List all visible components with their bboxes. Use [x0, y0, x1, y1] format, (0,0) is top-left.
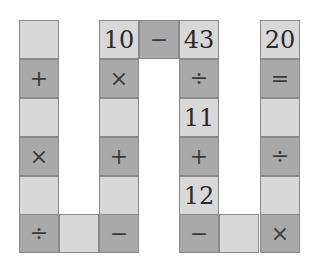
cell-number: 10	[104, 28, 135, 52]
cell-operator: +	[190, 146, 208, 168]
cell-number: 11	[184, 106, 215, 130]
operator-cell: −	[139, 20, 179, 59]
cell-operator: ÷	[271, 146, 289, 168]
cell-operator: −	[150, 29, 168, 51]
number-cell: 20	[260, 20, 300, 59]
number-cell: 12	[179, 176, 219, 215]
operator-cell: ÷	[19, 214, 59, 253]
cell-operator: =	[271, 68, 289, 90]
cell-operator: +	[110, 146, 128, 168]
empty-input-cell[interactable]	[99, 98, 139, 137]
empty-input-cell[interactable]	[99, 176, 139, 215]
cell-operator: ÷	[190, 68, 208, 90]
empty-input-cell[interactable]	[19, 20, 59, 59]
cell-operator: ×	[110, 68, 128, 90]
empty-input-cell[interactable]	[260, 176, 300, 215]
operator-cell: −	[179, 214, 219, 253]
empty-input-cell[interactable]	[19, 176, 59, 215]
cell-operator: ×	[271, 223, 289, 245]
operator-cell: ×	[99, 59, 139, 98]
math-path-puzzle-board: +×÷−+×10−43÷11+12−×÷=20	[0, 0, 319, 270]
operator-cell: +	[99, 137, 139, 176]
operator-cell: ÷	[179, 59, 219, 98]
operator-cell: =	[260, 59, 300, 98]
cell-number: 12	[184, 184, 215, 208]
operator-cell: +	[179, 137, 219, 176]
empty-input-cell[interactable]	[219, 214, 259, 253]
cell-operator: ×	[30, 146, 48, 168]
operator-cell: ÷	[260, 137, 300, 176]
cell-operator: −	[190, 223, 208, 245]
cell-operator: ÷	[30, 223, 48, 245]
cell-operator: +	[30, 68, 48, 90]
number-cell: 11	[179, 98, 219, 137]
empty-input-cell[interactable]	[19, 98, 59, 137]
number-cell: 43	[179, 20, 219, 59]
operator-cell: ×	[260, 214, 300, 253]
cell-number: 43	[184, 28, 215, 52]
empty-input-cell[interactable]	[59, 214, 99, 253]
cell-number: 20	[265, 28, 296, 52]
operator-cell: ×	[19, 137, 59, 176]
cell-operator: −	[110, 223, 128, 245]
empty-input-cell[interactable]	[260, 98, 300, 137]
operator-cell: +	[19, 59, 59, 98]
number-cell: 10	[99, 20, 139, 59]
operator-cell: −	[99, 214, 139, 253]
